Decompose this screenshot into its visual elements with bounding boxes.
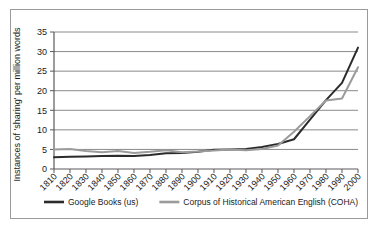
chart-legend: Google Books (us)Corpus of Historical Am… xyxy=(44,197,358,207)
x-axis-tick-label: 1830 xyxy=(70,171,91,192)
x-axis-tick-label: 1920 xyxy=(214,171,235,192)
y-axis-tick-label: 30 xyxy=(37,47,47,57)
x-axis-tick-label: 1810 xyxy=(38,171,59,192)
x-axis-tick-label: 1950 xyxy=(262,171,283,192)
y-axis-tick-labels: 05101520253035 xyxy=(37,27,47,174)
x-axis-tick-label: 1940 xyxy=(246,171,267,192)
gridlines xyxy=(54,32,358,149)
x-axis-tick-label: 1990 xyxy=(326,171,347,192)
chart-figure: 05101520253035 1810182018301840185018601… xyxy=(0,0,378,230)
y-axis-tick-label: 20 xyxy=(37,86,47,96)
y-axis-tick-label: 25 xyxy=(37,66,47,76)
x-axis-tick-label: 1870 xyxy=(134,171,155,192)
x-axis-tick-labels: 1810182018301840185018601870188018901900… xyxy=(38,171,363,192)
y-axis-tick-label: 15 xyxy=(37,106,47,116)
x-axis-tick-label: 1960 xyxy=(278,171,299,192)
x-axis-tick-label: 1930 xyxy=(230,171,251,192)
x-axis-tick-label: 1880 xyxy=(150,171,171,192)
series-lines xyxy=(54,48,358,158)
y-axis-tick-label: 5 xyxy=(42,145,47,155)
x-axis-tick-label: 1900 xyxy=(182,171,203,192)
line-chart: 05101520253035 1810182018301840185018601… xyxy=(0,0,378,230)
legend-label: Corpus of Historical American English (C… xyxy=(183,197,358,207)
x-axis-tick-label: 1820 xyxy=(54,171,75,192)
y-axis-tick-label: 35 xyxy=(37,27,47,37)
x-axis-tick-label: 2000 xyxy=(342,171,363,192)
x-axis-tick-label: 1970 xyxy=(294,171,315,192)
legend-label: Google Books (us) xyxy=(68,197,139,207)
y-axis-tick-label: 10 xyxy=(37,125,47,135)
x-axis-tick-label: 1840 xyxy=(86,171,107,192)
x-axis-tick-label: 1910 xyxy=(198,171,219,192)
x-axis-tick-label: 1860 xyxy=(118,171,139,192)
y-axis-tick-label: 0 xyxy=(42,164,47,174)
series-line xyxy=(54,48,358,158)
x-axis-tick-label: 1890 xyxy=(166,171,187,192)
y-axis-title: Instances of 'sharing' per million words xyxy=(12,27,22,182)
x-axis-tick-label: 1980 xyxy=(310,171,331,192)
x-axis-tick-label: 1850 xyxy=(102,171,123,192)
